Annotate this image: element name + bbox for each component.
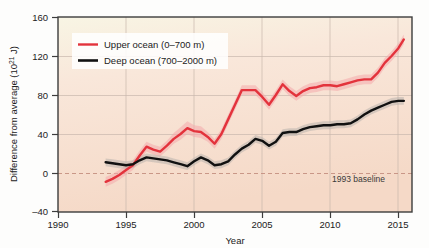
chart-svg: 160 120 80 40 0 –40 1990 1995 2000 2005 … [0,0,429,248]
legend-label-deep-ocean: Deep ocean (700–2000 m) [104,55,217,66]
x-axis-tick-labels: 1990 1995 2000 2005 2010 2015 [47,219,408,230]
y-tick-label-0: 0 [43,168,48,179]
y-tick-label-40: 40 [37,129,48,140]
x-tick-label-2010: 2010 [319,219,340,230]
legend-label-upper-ocean: Upper ocean (0–700 m) [104,39,204,50]
y-axis-tick-labels: 160 120 80 40 0 –40 [32,12,48,217]
y-tick-label-neg40: –40 [32,206,48,217]
x-axis-ticks [59,212,399,218]
x-tick-label-1995: 1995 [115,219,136,230]
y-axis-title-main: Difference from average (10 [8,64,19,182]
chart-figure: 160 120 80 40 0 –40 1990 1995 2000 2005 … [0,0,429,248]
y-axis-ticks [52,18,58,212]
y-axis-title: Difference from average (1021 J) [8,46,19,182]
y-tick-label-160: 160 [32,12,48,23]
y-tick-label-80: 80 [37,90,48,101]
svg-text:Difference from average (1021: Difference from average (1021 J) [8,46,19,182]
baseline-annotation: 1993 baseline [332,174,385,184]
x-tick-label-2000: 2000 [183,219,204,230]
x-tick-label-2005: 2005 [251,219,272,230]
x-tick-label-2015: 2015 [387,219,408,230]
x-axis-title: Year [225,235,244,246]
chart-legend: Upper ocean (0–700 m) Deep ocean (700–20… [72,33,228,69]
y-tick-label-120: 120 [32,51,48,62]
y-axis-title-tail: J) [8,46,19,57]
x-tick-label-1990: 1990 [47,219,68,230]
